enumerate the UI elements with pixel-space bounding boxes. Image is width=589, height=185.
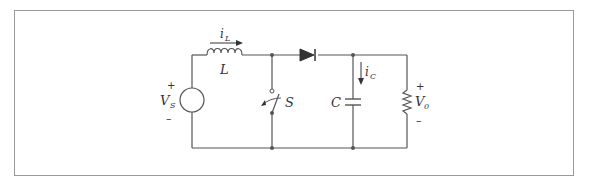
resistor-icon <box>403 90 411 114</box>
arrow-head-icon <box>236 40 243 46</box>
switch-label: S <box>285 95 294 110</box>
capacitor-label: C <box>331 95 341 110</box>
capacitor-current-subscript: C <box>370 72 376 81</box>
switch-arrow-head <box>261 100 266 106</box>
diode-icon <box>300 49 314 61</box>
circuit-diagram: + V S – i L L S i C C + V 0 – <box>0 0 589 185</box>
arrow-down-icon <box>358 78 364 85</box>
load-voltage-subscript: 0 <box>424 102 429 111</box>
capacitor-current-label: i <box>365 65 369 79</box>
inductor-label: L <box>219 62 229 77</box>
voltage-source-icon <box>180 88 204 112</box>
junction-dot <box>270 146 274 150</box>
load-minus-label: – <box>416 114 422 127</box>
junction-dot <box>270 53 274 57</box>
switch-contact-top <box>270 89 274 93</box>
switch-blade-icon <box>272 94 279 113</box>
inductor-icon <box>207 49 242 56</box>
inductor-current-subscript: L <box>224 34 230 43</box>
source-plus-label: + <box>167 80 175 91</box>
junction-dot <box>351 146 355 150</box>
source-subscript: S <box>170 101 176 110</box>
load-plus-label: + <box>416 81 424 92</box>
junction-dot <box>351 53 355 57</box>
source-minus-label: – <box>166 112 172 125</box>
inductor-current-label: i <box>220 27 224 41</box>
